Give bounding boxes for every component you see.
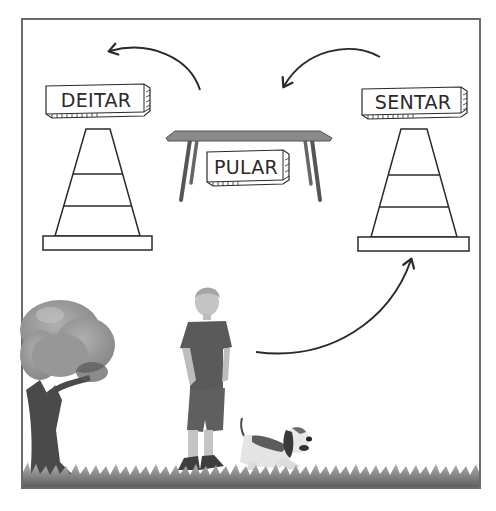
deitar-label: DEITAR (50, 89, 142, 111)
tree (20, 300, 115, 478)
arrow-right-cone-to-table (284, 49, 380, 86)
arrow-table-to-left-cone (110, 48, 200, 90)
scene-drawing (0, 0, 496, 511)
boy (178, 287, 232, 470)
dog (240, 418, 312, 470)
arrow-boy-to-right-cone (256, 260, 411, 353)
agility-scene: DEITAR SENTAR PULAR (0, 0, 496, 511)
sentar-label: SENTAR (366, 91, 460, 113)
right-cone (358, 129, 469, 251)
left-cone (43, 129, 152, 250)
pular-label: PULAR (210, 156, 282, 178)
